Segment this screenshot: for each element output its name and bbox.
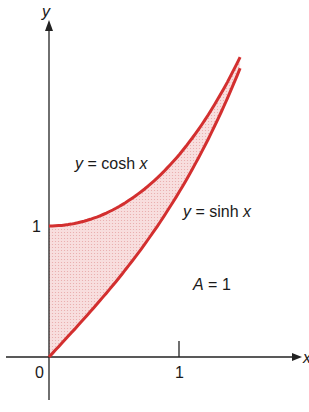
hyperbolic-area-diagram: y x 0 1 1 y = cosh x y = sinh x A = 1 <box>0 0 309 412</box>
y-axis-label: y <box>41 3 51 20</box>
cosh-label: y = cosh x <box>74 155 148 172</box>
sinh-label: y = sinh x <box>182 203 252 220</box>
y-tick-label: 1 <box>32 218 41 235</box>
x-axis-label: x <box>302 349 309 366</box>
area-label: A = 1 <box>192 276 231 293</box>
x-tick-label: 1 <box>175 364 184 381</box>
y-axis-arrow-icon <box>45 20 53 31</box>
origin-label: 0 <box>35 364 44 381</box>
x-axis-arrow-icon <box>292 353 302 361</box>
